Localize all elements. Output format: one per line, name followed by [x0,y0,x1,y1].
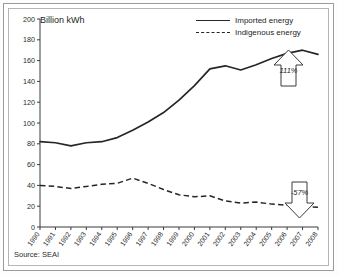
line-dashed-icon [196,29,230,36]
x-axis-tick-label: 1996 [119,230,134,247]
x-axis-tick-label: 1997 [134,230,149,247]
legend-label-indigenous-energy: Indigenous energy [235,29,301,37]
x-axis-tick-label: 1994 [88,230,103,247]
decline-arrow-down: -57% [283,180,316,220]
growth-arrow-up: 111% [272,48,305,88]
chart-figure: Billion kWh 0204060801001201401601802001… [0,0,339,276]
x-axis-tick-label: 2008 [304,230,319,247]
y-axis-tick-label: 120 [23,98,35,107]
x-axis-tick-label: 1993 [72,230,87,247]
legend-label-imported-energy: Imported energy [235,17,293,25]
y-axis-tick-label: 100 [23,119,35,128]
legend-item-indigenous-energy: Indigenous energy [196,27,301,38]
x-axis-tick-label: 1995 [103,230,118,247]
chart-plot-area: 0204060801001201401601802001990199119921… [0,0,339,276]
y-axis-tick-label: 40 [27,181,35,190]
arrow-down-icon [283,180,316,220]
x-axis-tick-label: 1991 [42,230,57,247]
x-axis-tick-label: 2000 [181,230,196,247]
legend-item-imported-energy: Imported energy [196,15,301,26]
y-axis-tick-label: 60 [27,160,35,169]
series-line-indigenous-energy [40,178,318,207]
x-axis-tick-label: 2002 [211,230,226,247]
decline-arrow-label: -57% [283,188,316,197]
x-axis-tick-label: 2003 [227,230,242,247]
x-axis-tick-label: 2004 [242,230,257,247]
y-axis-tick-label: 200 [23,15,35,24]
growth-arrow-label: 111% [272,66,305,75]
line-solid-icon [196,17,230,24]
y-axis-tick-label: 180 [23,35,35,44]
x-axis-tick-label: 1990 [26,230,41,247]
y-axis-tick-label: 160 [23,56,35,65]
x-axis-tick-label: 2007 [289,230,304,247]
y-axis-tick-label: 20 [27,202,35,211]
x-axis-tick-label: 1998 [150,230,165,247]
y-axis-tick-label: 140 [23,77,35,86]
chart-source-note: Source: SEAI [14,250,59,259]
x-axis-tick-label: 1999 [165,230,180,247]
x-axis-tick-label: 2006 [273,230,288,247]
x-axis-tick-label: 2005 [258,230,273,247]
chart-legend: Imported energy Indigenous energy [196,15,301,39]
x-axis-tick-label: 2001 [196,230,211,247]
x-axis-tick-label: 1992 [57,230,72,247]
y-axis-tick-label: 80 [27,139,35,148]
